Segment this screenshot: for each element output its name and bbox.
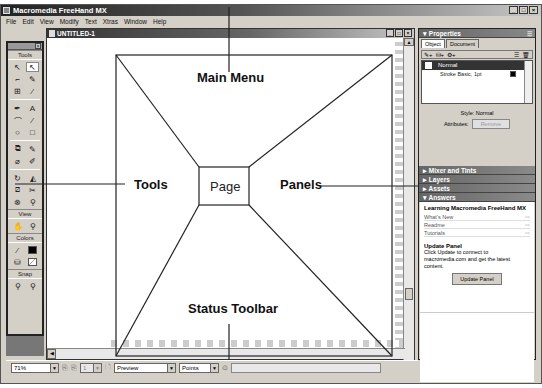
tab-object[interactable]: Object xyxy=(421,39,445,48)
units-select[interactable]: Points▼ xyxy=(179,363,219,373)
delete-icon[interactable]: 🗑 xyxy=(522,51,530,58)
list-item-normal[interactable]: Normal xyxy=(422,61,532,70)
answers-panel: Learning Macromedia FreeHand MX What's N… xyxy=(420,202,534,312)
view-mode-select[interactable]: Preview▼ xyxy=(114,363,176,373)
chevron-down-icon: ▼ xyxy=(210,364,218,372)
properties-panel-header[interactable]: ▾ Properties ☰ xyxy=(419,29,535,38)
main-menu-annotation: Main Menu xyxy=(197,70,264,85)
page-icon[interactable]: 🗋 xyxy=(105,362,111,373)
panel-answers-header[interactable]: ▾ Answers xyxy=(419,193,535,202)
tab-document[interactable]: Document xyxy=(446,39,479,48)
panel-empty-area xyxy=(420,312,534,382)
chevron-down-icon: ▼ xyxy=(93,364,101,372)
link-whats-new[interactable]: What's New⇨ xyxy=(424,213,530,221)
properties-toolbar: ✎+ ⛁+ ⚙+ ☰ 🗑 xyxy=(421,50,533,59)
page-annotation: Page xyxy=(210,179,240,194)
properties-list: Normal Stroke Basic, 1pt xyxy=(421,60,533,104)
panels-dock: ▾ Properties ☰ Object Document ✎+ ⛁+ ⚙+ … xyxy=(418,28,536,360)
list-item-stroke[interactable]: Stroke Basic, 1pt xyxy=(422,70,532,79)
remove-attributes-button[interactable]: Remove xyxy=(472,119,510,129)
go-arrow-icon: ⇨ xyxy=(525,229,530,236)
properties-panel-title: Properties xyxy=(429,30,461,37)
status-toolbar: 71%▼ ⎘ ⎘ 1▼ 🗋 Preview▼ Points▼ ⊙ xyxy=(6,360,418,374)
link-tutorials[interactable]: Tutorials⇨ xyxy=(424,229,530,237)
tools-annotation: Tools xyxy=(134,177,168,192)
style-label: Style: Normal xyxy=(421,110,533,116)
panel-mixer-and-tints[interactable]: ▸ Mixer and Tints xyxy=(419,166,535,175)
update-panel-text: Click Update to connect to macromedia.co… xyxy=(424,249,530,270)
status-toolbar-annotation: Status Toolbar xyxy=(188,301,278,316)
next-page-icon[interactable]: ⎘ xyxy=(71,364,77,372)
duplicate-icon[interactable]: ☰ xyxy=(514,51,519,58)
panels-annotation: Panels xyxy=(280,177,322,192)
chevron-down-icon: ▼ xyxy=(50,364,58,372)
add-fill-icon[interactable]: ⛁+ xyxy=(436,51,445,58)
add-stroke-icon[interactable]: ✎+ xyxy=(424,51,433,58)
stroke-color-swatch[interactable] xyxy=(510,71,516,77)
go-arrow-icon: ⇨ xyxy=(525,221,530,228)
panel-assets[interactable]: ▸ Assets xyxy=(419,184,535,193)
link-readme[interactable]: Readme⇨ xyxy=(424,221,530,229)
checkbox-icon[interactable] xyxy=(425,62,432,69)
page-select[interactable]: 1▼ xyxy=(80,363,102,373)
attributes-label: Attributes: xyxy=(444,121,469,127)
panel-options-icon[interactable]: ☰ xyxy=(527,30,532,39)
answers-heading: Learning Macromedia FreeHand MX xyxy=(424,205,530,211)
add-effect-icon[interactable]: ⚙+ xyxy=(447,51,456,58)
properties-list-scrollbar[interactable] xyxy=(524,61,532,103)
previous-page-icon[interactable]: ⎘ xyxy=(62,364,68,372)
update-panel-button[interactable]: Update Panel xyxy=(452,273,502,285)
chevron-down-icon: ▼ xyxy=(167,364,175,372)
go-arrow-icon: ⇨ xyxy=(525,213,530,220)
zoom-select[interactable]: 71%▼ xyxy=(11,363,59,373)
panel-layers[interactable]: ▸ Layers xyxy=(419,175,535,184)
status-indicator-icon: ⊙ xyxy=(222,364,228,372)
status-info-field xyxy=(231,363,381,373)
